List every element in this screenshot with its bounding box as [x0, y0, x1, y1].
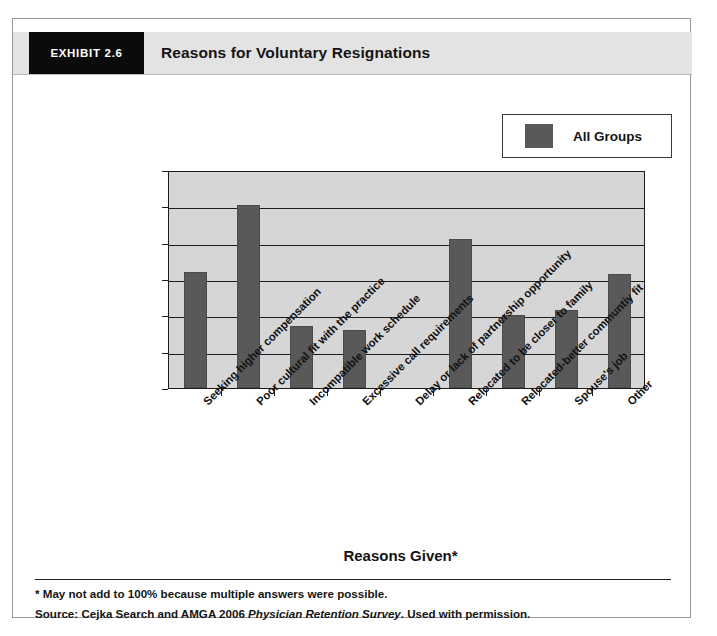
bar [184, 272, 207, 388]
source-suffix: . Used with permission. [401, 607, 531, 620]
y-axis-tick-mark [162, 171, 168, 172]
source-publication: Physician Retention Survey [248, 607, 401, 620]
exhibit-header: EXHIBIT 2.6 Reasons for Voluntary Resign… [13, 32, 692, 75]
legend-label-all-groups: All Groups [573, 129, 642, 144]
y-axis-tick-mark [162, 244, 168, 245]
footnote-divider [35, 579, 671, 580]
y-axis-tick-mark [162, 280, 168, 281]
y-axis-tick-mark [162, 316, 168, 317]
chart-legend: All Groups [502, 114, 672, 158]
legend-swatch-all-groups [525, 124, 553, 148]
y-axis-tick-mark [162, 389, 168, 390]
exhibit-number-tag: EXHIBIT 2.6 [29, 32, 144, 74]
footnote-asterisk: * May not add to 100% because multiple a… [35, 587, 387, 600]
exhibit-title: Reasons for Voluntary Resignations [161, 32, 430, 74]
source-prefix: Source: Cejka Search and AMGA 2006 [35, 607, 248, 620]
y-axis-tick-mark [162, 353, 168, 354]
exhibit-card: EXHIBIT 2.6 Reasons for Voluntary Resign… [12, 18, 691, 618]
footnote-source: Source: Cejka Search and AMGA 2006 Physi… [35, 607, 530, 620]
y-axis-tick-mark [162, 207, 168, 208]
x-axis-title: Reasons Given* [156, 547, 645, 564]
